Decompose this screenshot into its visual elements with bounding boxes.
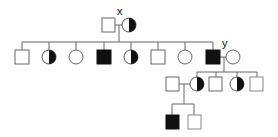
- label-x: x: [117, 6, 123, 17]
- pedigree-diagram: x y: [0, 0, 278, 137]
- individual-III-3-female-carrier: [230, 77, 244, 91]
- individual-III-0-male-unaffected: [166, 77, 179, 91]
- individual-II-3-female-unaffected: [69, 50, 83, 64]
- individual-II-8-male-affected: [206, 50, 220, 64]
- individual-II-4-male-affected: [97, 50, 111, 64]
- individual-II-6-male-unaffected: [151, 50, 165, 64]
- individual-I-1-male-unaffected: [102, 18, 115, 32]
- individual-III-1-female-carrier: [190, 77, 204, 91]
- individual-III-4-male-unaffected: [250, 77, 263, 91]
- individual-II-7-female-unaffected: [178, 50, 192, 64]
- individual-II-2-female-carrier: [42, 50, 56, 64]
- individual-IV-1-male-affected: [166, 115, 179, 129]
- individual-III-2-male-unaffected: [209, 77, 222, 91]
- individual-II-5-female-carrier: [124, 50, 138, 64]
- individual-II-9-female-unaffected: [226, 50, 240, 64]
- individual-IV-2-male-unaffected: [188, 115, 201, 129]
- individual-I-2-female-carrier: [122, 18, 136, 32]
- pedigree-svg: [0, 0, 278, 137]
- label-y: y: [222, 38, 228, 49]
- individual-II-1-male-unaffected: [15, 50, 29, 64]
